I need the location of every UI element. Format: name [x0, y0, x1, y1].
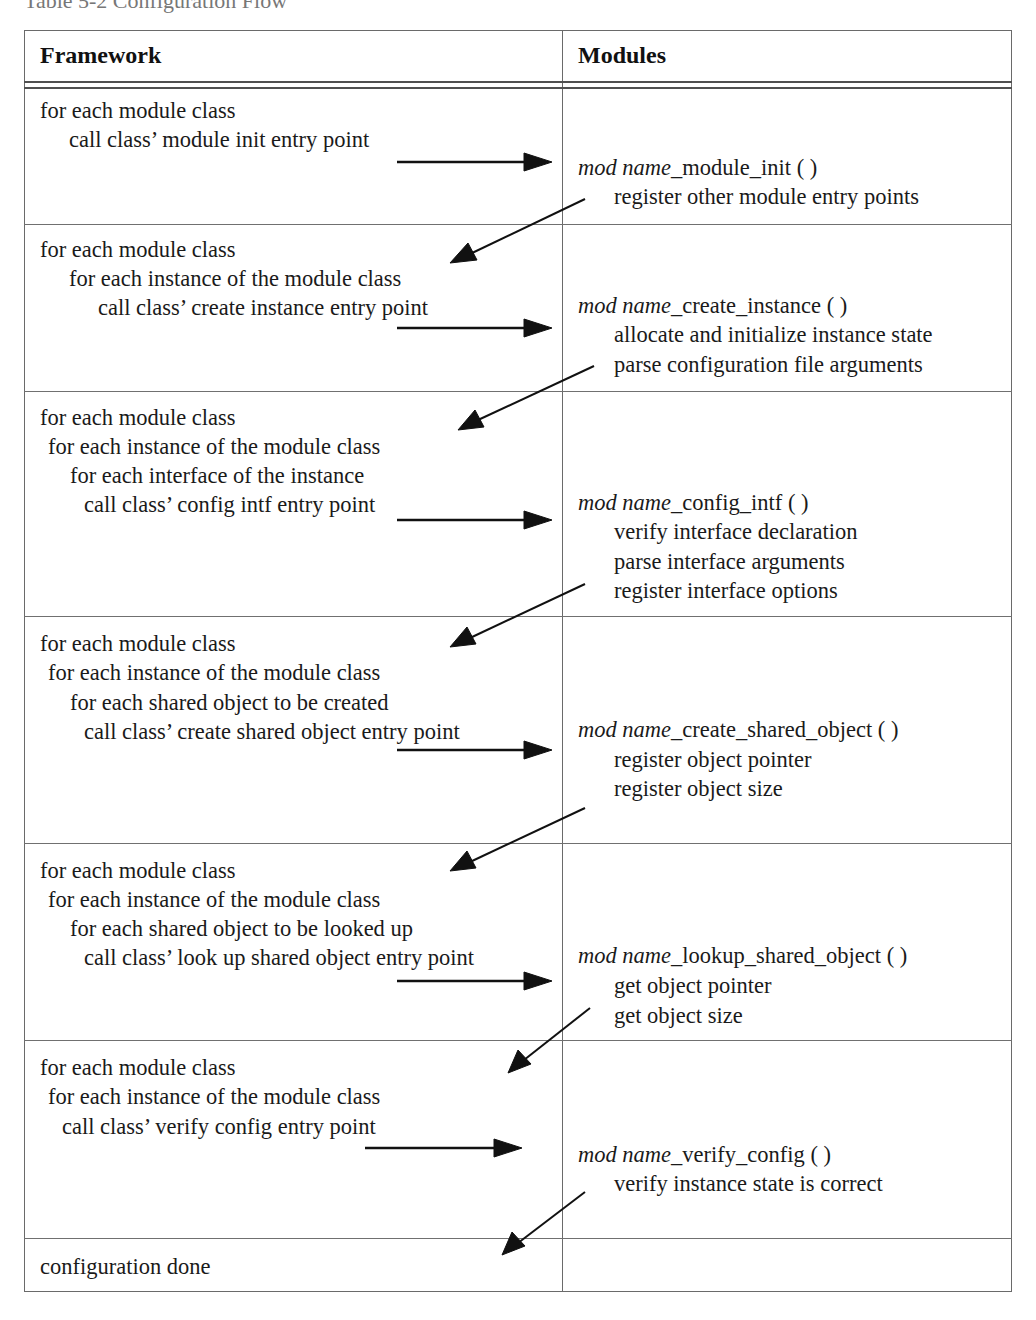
header-rule-bottom — [24, 87, 1012, 89]
framework-line: call class’ create shared object entry p… — [84, 721, 460, 744]
framework-line: for each module class — [40, 860, 236, 883]
module-fn-suffix: _lookup_shared_object ( ) — [671, 943, 907, 968]
module-fn-prefix: mod name — [578, 155, 671, 180]
row-separator — [24, 843, 1012, 844]
framework-line: for each instance of the module class — [48, 662, 380, 685]
module-function: mod name_create_shared_object ( ) — [578, 719, 898, 742]
module-step: register other module entry points — [614, 186, 919, 209]
module-function: mod name_verify_config ( ) — [578, 1144, 831, 1167]
framework-line: for each instance of the module class — [48, 436, 380, 459]
module-fn-prefix: mod name — [578, 293, 671, 318]
header-modules: Modules — [578, 42, 666, 69]
framework-line: for each instance of the module class — [48, 889, 380, 912]
module-fn-suffix: _module_init ( ) — [671, 155, 817, 180]
row-separator — [24, 1238, 1012, 1239]
row-separator — [24, 616, 1012, 617]
framework-line: for each instance of the module class — [48, 1086, 380, 1109]
framework-line: for each module class — [40, 239, 236, 262]
framework-line: call class’ create instance entry point — [98, 297, 428, 320]
module-function: mod name_create_instance ( ) — [578, 295, 847, 318]
header-framework: Framework — [40, 42, 161, 69]
module-fn-suffix: _create_instance ( ) — [671, 293, 847, 318]
module-step: parse interface arguments — [614, 551, 845, 574]
framework-line: for each module class — [40, 1057, 236, 1080]
module-step: verify instance state is correct — [614, 1173, 883, 1196]
module-fn-prefix: mod name — [578, 943, 671, 968]
module-function: mod name_module_init ( ) — [578, 157, 817, 180]
framework-line: for each instance of the module class — [69, 268, 401, 291]
row-separator — [24, 224, 1012, 225]
framework-line: call class’ module init entry point — [69, 129, 369, 152]
framework-line: configuration done — [40, 1256, 211, 1279]
framework-line: call class’ look up shared object entry … — [84, 947, 474, 970]
row-separator — [24, 1040, 1012, 1041]
module-step: register interface options — [614, 580, 838, 603]
module-function: mod name_lookup_shared_object ( ) — [578, 945, 907, 968]
module-step: allocate and initialize instance state — [614, 324, 933, 347]
module-fn-prefix: mod name — [578, 1142, 671, 1167]
module-fn-prefix: mod name — [578, 717, 671, 742]
module-step: register object pointer — [614, 749, 811, 772]
column-divider — [562, 30, 563, 1292]
framework-line: for each module class — [40, 407, 236, 430]
row-separator — [24, 391, 1012, 392]
module-fn-suffix: _create_shared_object ( ) — [671, 717, 898, 742]
module-step: get object size — [614, 1005, 743, 1028]
framework-line: call class’ config intf entry point — [84, 494, 375, 517]
framework-line: for each module class — [40, 633, 236, 656]
framework-line: for each interface of the instance — [70, 465, 364, 488]
module-step: get object pointer — [614, 975, 771, 998]
framework-line: for each shared object to be created — [70, 692, 389, 715]
module-fn-prefix: mod name — [578, 490, 671, 515]
framework-line: for each shared object to be looked up — [70, 918, 413, 941]
module-fn-suffix: _config_intf ( ) — [671, 490, 808, 515]
module-step: register object size — [614, 778, 783, 801]
framework-line: call class’ verify config entry point — [62, 1116, 376, 1139]
module-function: mod name_config_intf ( ) — [578, 492, 809, 515]
module-step: verify interface declaration — [614, 521, 858, 544]
header-rule-top — [24, 81, 1012, 83]
module-fn-suffix: _verify_config ( ) — [671, 1142, 831, 1167]
document-page: Table 5-2 Configuration Flow Framework M… — [0, 0, 1036, 1320]
module-step: parse configuration file arguments — [614, 354, 923, 377]
framework-line: for each module class — [40, 100, 236, 123]
table-caption: Table 5-2 Configuration Flow — [24, 0, 287, 14]
